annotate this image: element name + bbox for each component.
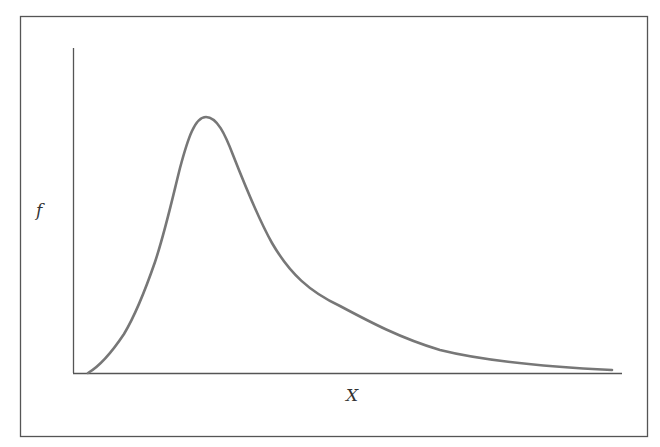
x-axis-label: X: [344, 385, 359, 405]
chart: f X: [0, 0, 660, 447]
density-curve: [88, 117, 612, 373]
y-axis-label: f: [34, 200, 45, 220]
